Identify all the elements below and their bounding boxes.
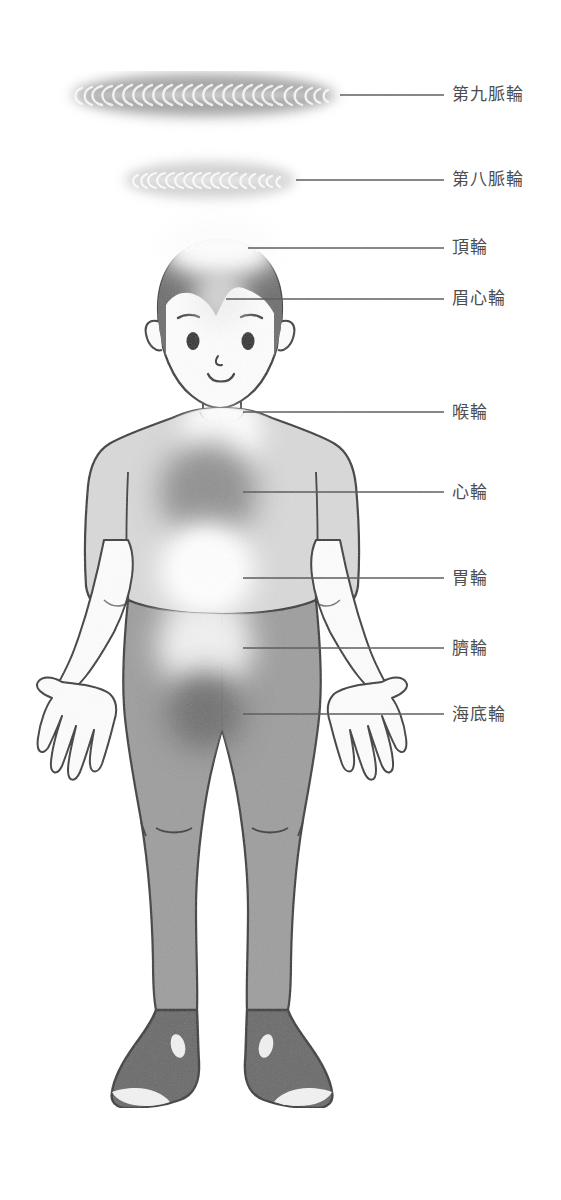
left-hand [37, 678, 116, 780]
left-shoe [112, 1010, 200, 1108]
chakra-label-heart: 心輪 [452, 484, 488, 501]
chakra-root-glow [163, 670, 247, 754]
chakra-label-throat: 喉輪 [452, 404, 488, 421]
chakra-label-root: 海底輪 [452, 706, 506, 723]
chakra-stomach-glow [159, 522, 255, 618]
left-eye [187, 332, 200, 350]
chakra-eighth-disc [124, 160, 296, 200]
chakra-label-crown: 頂輪 [452, 239, 488, 256]
right-shoe [245, 1010, 333, 1108]
right-hand [328, 678, 407, 780]
chakra-diagram: 第九脈輪 第八脈輪 頂輪 眉心輪 喉輪 心輪 胃輪 臍輪 海底輪 [0, 0, 561, 1200]
chakra-label-ninth: 第九脈輪 [452, 86, 524, 103]
chakra-ninth-disc [71, 71, 337, 119]
right-eye [242, 332, 255, 350]
chakra-label-eighth: 第八脈輪 [452, 171, 524, 188]
chakra-label-brow: 眉心輪 [452, 290, 506, 307]
chakra-brow-glow [192, 272, 248, 328]
chakra-label-navel: 臍輪 [452, 640, 488, 657]
chakra-crown-glow [160, 217, 280, 277]
chakra-label-stomach: 胃輪 [452, 570, 488, 587]
